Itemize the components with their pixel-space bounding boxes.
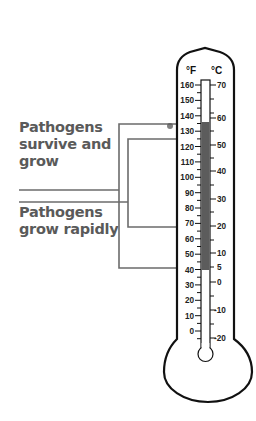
svg-text:0: 0 xyxy=(217,278,222,287)
unit-fahrenheit: °F xyxy=(186,65,196,76)
svg-text:70: 70 xyxy=(185,219,195,228)
svg-text:40: 40 xyxy=(185,266,195,275)
bracket-survive-and-grow xyxy=(19,124,177,268)
svg-text:130: 130 xyxy=(180,127,194,136)
svg-text:80: 80 xyxy=(185,204,195,213)
svg-text:90: 90 xyxy=(185,189,195,198)
svg-text:70: 70 xyxy=(217,81,227,90)
svg-text:-10: -10 xyxy=(214,306,226,315)
svg-text:110: 110 xyxy=(181,158,195,167)
svg-text:5: 5 xyxy=(217,263,222,272)
svg-text:10: 10 xyxy=(185,312,195,321)
bracket-grow-rapidly xyxy=(19,139,177,227)
svg-text:-20: -20 xyxy=(214,334,226,343)
svg-text:120: 120 xyxy=(180,143,194,152)
thermometer-fill xyxy=(202,122,210,270)
smudge-mark xyxy=(167,123,173,129)
svg-text:0: 0 xyxy=(189,327,194,336)
svg-text:100: 100 xyxy=(180,173,194,182)
svg-text:30: 30 xyxy=(185,281,195,290)
svg-text:50: 50 xyxy=(185,250,195,259)
svg-text:60: 60 xyxy=(185,235,195,244)
unit-celsius: °C xyxy=(211,65,222,76)
svg-text:60: 60 xyxy=(217,114,227,123)
thermometer-diagram: °F °C 160 150 140 130 120 110 100 90 80 … xyxy=(0,0,256,421)
svg-text:40: 40 xyxy=(217,167,227,176)
svg-text:160: 160 xyxy=(180,81,194,90)
svg-text:50: 50 xyxy=(217,141,227,150)
svg-text:150: 150 xyxy=(180,96,194,105)
svg-text:10: 10 xyxy=(217,249,227,258)
svg-text:20: 20 xyxy=(217,222,227,231)
svg-text:30: 30 xyxy=(217,195,227,204)
svg-text:140: 140 xyxy=(180,112,194,121)
svg-text:20: 20 xyxy=(185,296,195,305)
